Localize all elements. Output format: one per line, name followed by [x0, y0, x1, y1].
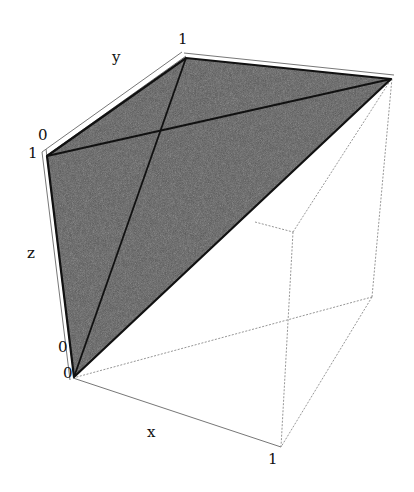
z-axis-tick-1: 1	[28, 146, 38, 161]
y-axis-tick-0: 0	[38, 128, 48, 143]
z-axis-label: z	[27, 246, 35, 261]
x-axis-tick-1: 1	[268, 452, 278, 467]
y-axis-tick-1: 1	[178, 32, 188, 47]
z-axis-tick-0: 0	[58, 340, 68, 355]
x-axis-tick-0: 0	[63, 366, 73, 381]
x-axis-label: x	[147, 425, 155, 440]
y-axis-label: y	[112, 50, 120, 65]
3d-plot	[0, 0, 414, 492]
shaded-surface	[47, 58, 391, 377]
